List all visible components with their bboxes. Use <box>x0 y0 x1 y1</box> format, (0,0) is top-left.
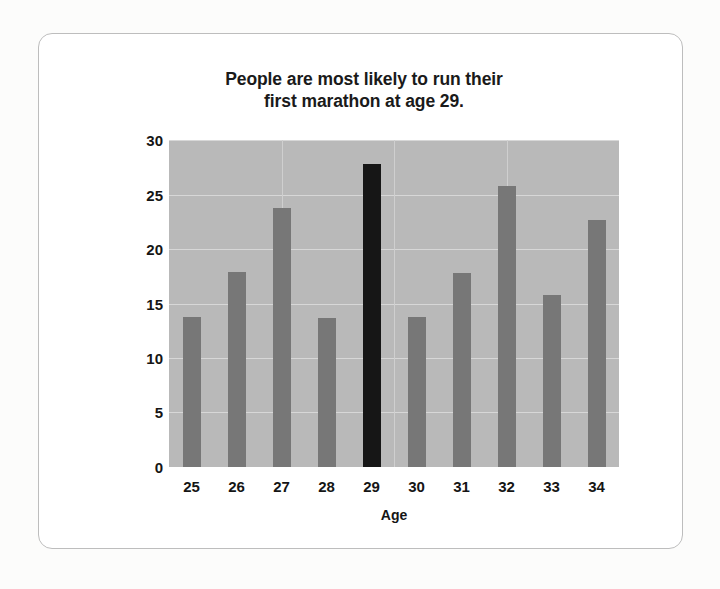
x-axis-title: Age <box>169 507 619 523</box>
chart-title-line-2: first marathon at age 29. <box>129 90 599 112</box>
x-tick-label: 32 <box>484 467 529 495</box>
x-tick-label: 28 <box>304 467 349 495</box>
bar <box>228 272 246 467</box>
bar-slot <box>349 140 394 467</box>
bar-series <box>169 140 619 467</box>
bar-slot <box>304 140 349 467</box>
bar <box>408 317 426 467</box>
x-tick-label: 33 <box>529 467 574 495</box>
y-tick-label: 5 <box>155 405 163 420</box>
bar-slot <box>529 140 574 467</box>
y-tick-label: 25 <box>146 187 163 202</box>
y-axis-ticks: 30 25 20 15 10 5 0 <box>127 140 163 467</box>
x-axis-ticks: 25262728293031323334 <box>169 467 619 495</box>
x-tick-label: 27 <box>259 467 304 495</box>
bar-slot <box>574 140 619 467</box>
y-tick-label: 20 <box>146 241 163 256</box>
x-tick-label: 31 <box>439 467 484 495</box>
bar-slot <box>394 140 439 467</box>
bar-slot <box>439 140 484 467</box>
x-tick-label: 25 <box>169 467 214 495</box>
bar <box>543 295 561 467</box>
bar-highlighted <box>363 164 381 467</box>
chart-card: People are most likely to run their firs… <box>38 33 683 549</box>
y-tick-label: 0 <box>155 460 163 475</box>
x-tick-label: 30 <box>394 467 439 495</box>
chart-title-line-1: People are most likely to run their <box>129 68 599 90</box>
bar <box>318 318 336 467</box>
bar-slot <box>169 140 214 467</box>
x-tick-label: 34 <box>574 467 619 495</box>
bar-slot <box>259 140 304 467</box>
bar <box>453 273 471 467</box>
chart-title: People are most likely to run their firs… <box>129 68 599 113</box>
bar <box>498 186 516 467</box>
plot-wrapper: Number of first-time marathoners per 500… <box>169 140 619 467</box>
bar <box>588 220 606 467</box>
x-tick-label: 29 <box>349 467 394 495</box>
bar <box>183 317 201 467</box>
bar-slot <box>484 140 529 467</box>
bar-slot <box>214 140 259 467</box>
page-root: People are most likely to run their firs… <box>0 0 720 589</box>
y-tick-label: 10 <box>146 351 163 366</box>
y-tick-label: 15 <box>146 296 163 311</box>
y-tick-label: 30 <box>146 133 163 148</box>
bar <box>273 208 291 467</box>
x-tick-label: 26 <box>214 467 259 495</box>
plot-area <box>169 140 619 467</box>
